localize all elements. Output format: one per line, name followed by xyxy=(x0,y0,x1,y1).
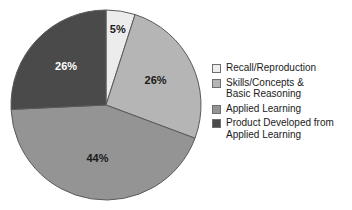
chart-legend: Recall/Reproduction Skills/Concepts & Ba… xyxy=(212,62,352,143)
pie-slices xyxy=(11,10,201,200)
pie-chart-figure: 5% 26% 44% 26% Recall/Reproduction Skill… xyxy=(0,0,352,210)
legend-label-skills: Skills/Concepts & Basic Reasoning xyxy=(226,77,304,100)
legend-item-applied[interactable]: Applied Learning xyxy=(212,103,352,115)
legend-swatch-applied xyxy=(212,105,221,114)
pie-label-skills: 26% xyxy=(145,74,167,86)
legend-item-recall[interactable]: Recall/Reproduction xyxy=(212,62,352,74)
legend-swatch-recall xyxy=(212,64,221,73)
legend-swatch-skills xyxy=(212,79,221,88)
legend-item-product[interactable]: Product Developed from Applied Learning xyxy=(212,117,352,140)
legend-label-product: Product Developed from Applied Learning xyxy=(226,117,334,140)
legend-label-recall: Recall/Reproduction xyxy=(226,62,316,74)
pie-label-product: 26% xyxy=(55,60,77,72)
pie-label-recall: 5% xyxy=(110,23,126,35)
legend-swatch-product xyxy=(212,119,221,128)
legend-item-skills[interactable]: Skills/Concepts & Basic Reasoning xyxy=(212,77,352,100)
pie-label-applied: 44% xyxy=(86,152,108,164)
legend-label-applied: Applied Learning xyxy=(226,103,301,115)
pie-svg: 5% 26% 44% 26% xyxy=(8,7,204,203)
pie-graphic: 5% 26% 44% 26% xyxy=(8,7,204,203)
